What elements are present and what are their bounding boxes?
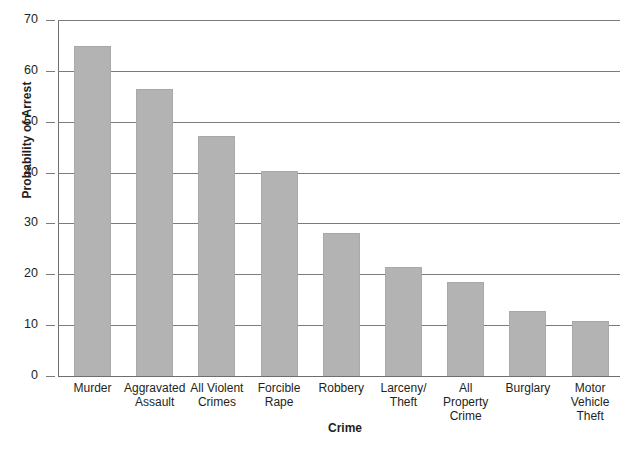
x-axis-tick-label: MotorVehicleTheft bbox=[549, 381, 631, 423]
bar bbox=[136, 89, 173, 376]
y-axis-tick bbox=[46, 71, 55, 72]
y-axis-tick-label: 50 bbox=[0, 114, 38, 128]
y-axis-tick-label: 30 bbox=[0, 215, 38, 229]
bar bbox=[572, 321, 609, 376]
bar-chart-figure: Probability of Arrest 010203040506070 Mu… bbox=[0, 0, 636, 450]
bar bbox=[447, 282, 484, 376]
x-axis-tick-label-line: Rape bbox=[238, 395, 320, 409]
bar bbox=[74, 46, 111, 376]
x-axis-tick-label-line: Property bbox=[425, 395, 507, 409]
y-axis-tick-label: 70 bbox=[0, 12, 38, 26]
x-axis-tick-label-line: Motor bbox=[549, 381, 631, 395]
y-axis-tick bbox=[46, 274, 55, 275]
bar bbox=[385, 267, 422, 376]
x-axis-title-text: Crime bbox=[328, 421, 362, 435]
y-axis-tick-label: 40 bbox=[0, 165, 38, 179]
y-axis-tick bbox=[46, 20, 55, 21]
y-axis-tick-label: 60 bbox=[0, 63, 38, 77]
y-axis-tick bbox=[46, 223, 55, 224]
x-axis-tick-label-line: Vehicle bbox=[549, 395, 631, 409]
gridline bbox=[58, 71, 620, 72]
gridline bbox=[58, 20, 620, 21]
y-axis-tick-label: 10 bbox=[0, 317, 38, 331]
y-axis-tick-label: 20 bbox=[0, 266, 38, 280]
y-axis-tick bbox=[46, 325, 55, 326]
y-axis-tick bbox=[46, 122, 55, 123]
x-axis-line bbox=[58, 376, 620, 377]
y-axis-title: Probability of Arrest bbox=[20, 55, 34, 225]
y-axis-tick bbox=[46, 173, 55, 174]
y-axis-tick-label: 0 bbox=[0, 368, 38, 382]
bar bbox=[323, 233, 360, 376]
bar bbox=[509, 311, 546, 376]
y-axis-tick bbox=[46, 376, 55, 377]
bar bbox=[261, 171, 298, 376]
bar bbox=[198, 136, 235, 376]
plot-area bbox=[58, 20, 620, 376]
x-axis-title: Crime bbox=[0, 421, 636, 435]
